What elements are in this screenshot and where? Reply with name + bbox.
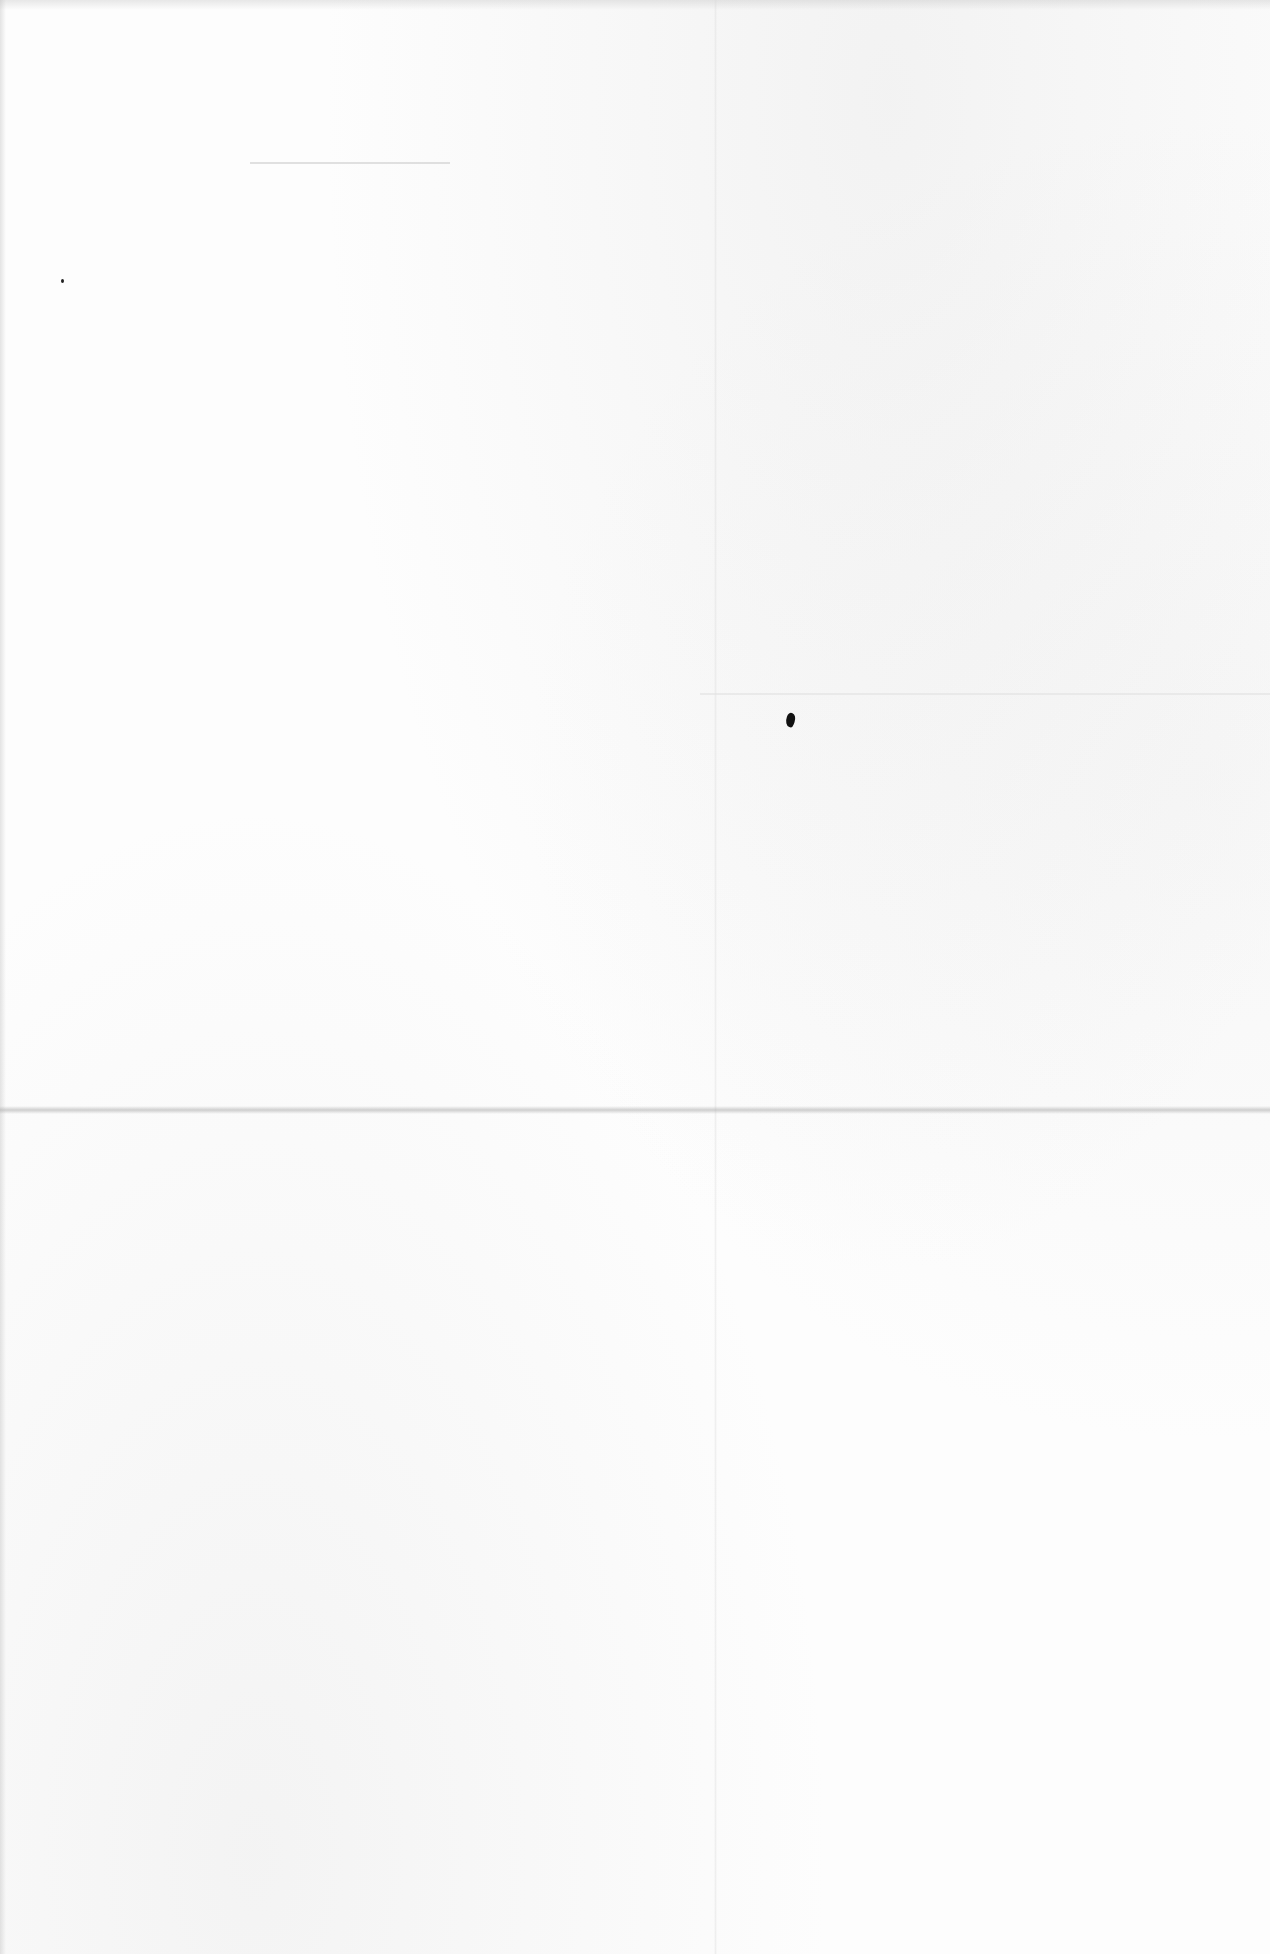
faint-mark [250,162,450,164]
scan-edge-top [0,0,1270,10]
vertical-fold-crease [714,0,717,1954]
ink-speck [784,712,797,728]
ink-speck [61,279,64,283]
horizontal-fold-crease [0,1106,1270,1114]
faint-mark [700,693,1270,695]
scan-edge-left [0,0,6,1954]
blank-page [0,0,1270,1954]
